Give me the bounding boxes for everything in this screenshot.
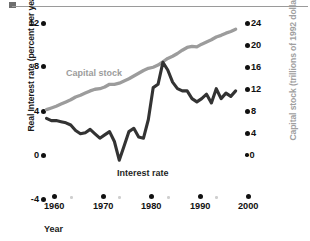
- interest-rate-series-label: Interest rate: [117, 168, 169, 178]
- capital-stock-series-label: Capital stock: [66, 68, 122, 78]
- plot-area: [0, 0, 310, 241]
- chart-figure: Real Interest rate (percent per year) Ca…: [0, 0, 310, 241]
